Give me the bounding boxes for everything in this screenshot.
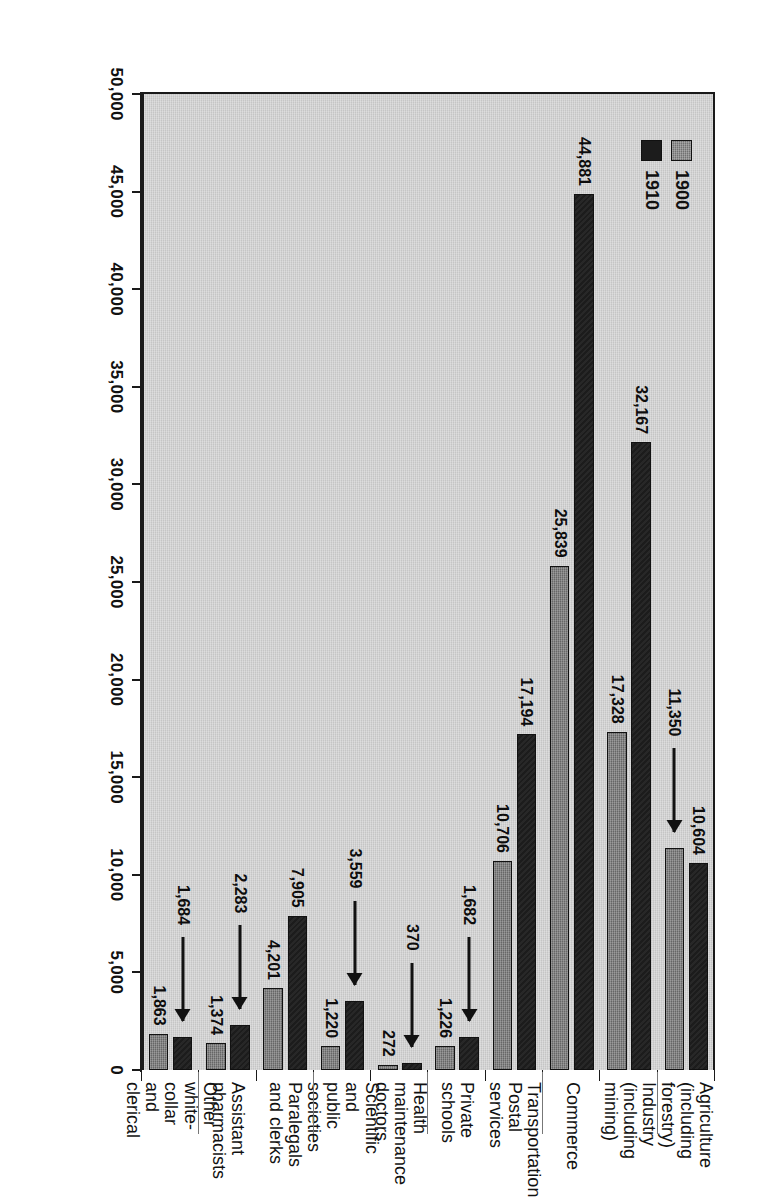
bar-value-label: 4,201 xyxy=(264,940,282,984)
leader-arrow xyxy=(468,937,471,1021)
value-tick xyxy=(132,874,142,876)
bar-1900 xyxy=(550,566,569,1070)
bar-1910 xyxy=(402,1063,421,1070)
chart-legend: 1900 1910 xyxy=(641,140,692,210)
bar-value-label: 370 xyxy=(403,924,421,955)
leader-arrow xyxy=(353,901,356,985)
category-separator xyxy=(198,1072,199,1134)
bar-1900 xyxy=(665,848,684,1070)
bar-1900 xyxy=(206,1043,225,1070)
value-tick xyxy=(132,971,142,973)
bar-1910 xyxy=(288,916,307,1070)
bar-value-label: 1,374 xyxy=(207,995,225,1039)
bar-value-label: 32,167 xyxy=(632,385,650,438)
plot-area xyxy=(142,92,715,1070)
value-tick xyxy=(132,679,142,681)
legend-item-1910: 1910 xyxy=(641,140,662,210)
bar-value-label: 7,905 xyxy=(288,868,306,912)
bar-1900 xyxy=(493,861,512,1070)
bar-value-label: 1,684 xyxy=(174,885,192,929)
bar-value-label: 1,226 xyxy=(436,998,454,1042)
value-tick-label: 50,000 xyxy=(106,67,126,120)
bar-value-label: 2,283 xyxy=(231,873,249,917)
category-label: Scientific and public societies xyxy=(304,1082,380,1154)
category-label: Other white-collar and clerical xyxy=(123,1082,218,1138)
value-tick xyxy=(132,483,142,485)
bar-value-label: 1,682 xyxy=(460,885,478,929)
bar-value-label: 17,328 xyxy=(608,675,626,728)
value-tick-label: 15,000 xyxy=(106,751,126,804)
category-tick xyxy=(141,1070,142,1081)
category-tick xyxy=(714,1070,715,1081)
bar-value-label: 44,881 xyxy=(575,137,593,190)
category-label: Paralegals and clerks xyxy=(266,1082,304,1167)
bar-1910 xyxy=(574,194,593,1070)
legend-label-1900: 1900 xyxy=(671,170,692,210)
category-label: Agriculture (including forestry) xyxy=(658,1082,715,1168)
bar-1910 xyxy=(459,1037,478,1070)
value-tick xyxy=(132,776,142,778)
category-tick xyxy=(370,1070,371,1081)
category-tick xyxy=(599,1070,600,1081)
legend-label-1910: 1910 xyxy=(641,170,662,210)
bar-1910 xyxy=(173,1037,192,1070)
category-separator xyxy=(542,1072,543,1134)
category-tick xyxy=(485,1070,486,1081)
bar-1900 xyxy=(378,1065,397,1070)
category-label: Industry (including mining) xyxy=(600,1082,657,1159)
value-tick-label: 30,000 xyxy=(106,458,126,511)
bar-value-label: 25,839 xyxy=(551,509,569,562)
legend-swatch-1900 xyxy=(671,140,692,161)
leader-arrow xyxy=(673,748,676,832)
bar-1910 xyxy=(631,442,650,1070)
value-tick-label: 25,000 xyxy=(106,555,126,608)
category-tick xyxy=(256,1070,257,1081)
value-tick xyxy=(132,191,142,193)
leader-arrow xyxy=(238,925,241,1009)
category-label: Transportation Postal services xyxy=(486,1082,543,1197)
value-tick-label: 0 xyxy=(106,1065,126,1075)
value-tick-label: 35,000 xyxy=(106,360,126,413)
bar-1910 xyxy=(517,734,536,1070)
category-separator xyxy=(313,1072,314,1134)
bar-1900 xyxy=(607,732,626,1070)
bar-1900 xyxy=(149,1034,168,1070)
leader-arrow xyxy=(181,937,184,1021)
bar-value-label: 17,194 xyxy=(517,677,535,730)
value-tick xyxy=(132,386,142,388)
bar-value-label: 1,863 xyxy=(150,986,168,1030)
value-tick-label: 10,000 xyxy=(106,848,126,901)
category-separator xyxy=(657,1072,658,1134)
value-tick-label: 5,000 xyxy=(106,951,126,995)
legend-item-1900: 1900 xyxy=(671,140,692,210)
bar-value-label: 10,706 xyxy=(493,804,511,857)
bar-1900 xyxy=(321,1046,340,1070)
value-tick-label: 45,000 xyxy=(106,165,126,218)
bar-1900 xyxy=(435,1046,454,1070)
value-tick-label: 20,000 xyxy=(106,653,126,706)
value-tick xyxy=(132,93,142,95)
bar-value-label: 3,559 xyxy=(346,848,364,892)
bar-value-label: 11,350 xyxy=(665,688,683,740)
category-separator xyxy=(428,1072,429,1134)
bar-value-label: 272 xyxy=(379,1030,397,1061)
value-tick xyxy=(132,288,142,290)
value-tick xyxy=(132,581,142,583)
bar-1910 xyxy=(689,863,708,1070)
bar-1900 xyxy=(264,988,283,1070)
bar-1910 xyxy=(345,1001,364,1070)
category-label: Private schools xyxy=(438,1082,476,1143)
value-tick-label: 40,000 xyxy=(106,263,126,316)
bar-value-label: 10,604 xyxy=(689,806,707,859)
bar-value-label: 1,220 xyxy=(322,998,340,1042)
legend-swatch-1910 xyxy=(641,140,662,161)
category-label: Commerce xyxy=(562,1082,581,1170)
leader-arrow xyxy=(410,963,413,1047)
bar-1910 xyxy=(230,1025,249,1070)
